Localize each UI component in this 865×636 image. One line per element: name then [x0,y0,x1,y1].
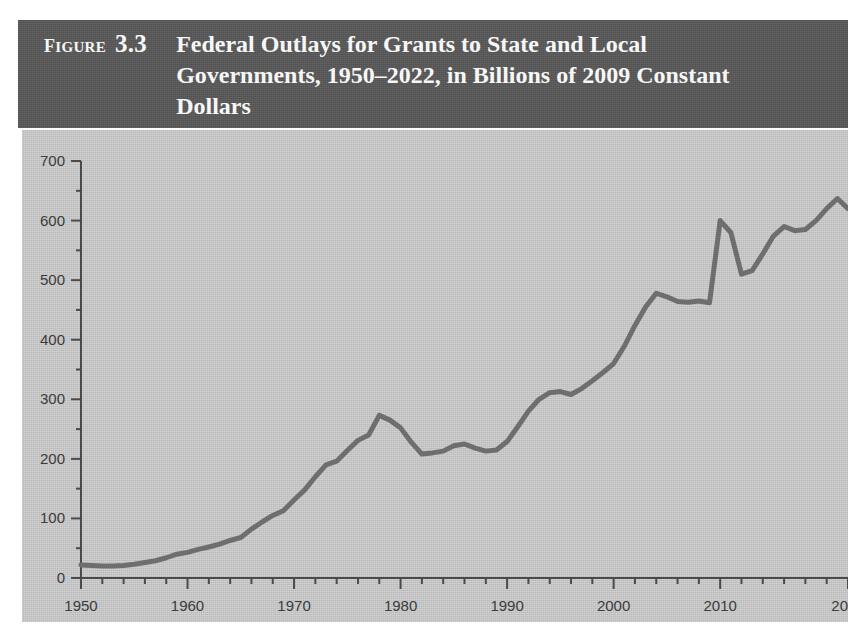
y-axis: 0100200300400500600700 [40,152,81,586]
y-axis-tick-label: 200 [40,450,65,467]
figure-label: Figure [44,29,115,60]
figure-number: 3.3 [115,29,147,59]
y-axis-tick-label: 300 [40,390,65,407]
chart-panel: 0100200300400500600700 19501960197019801… [22,130,848,622]
y-axis-tick-label: 500 [40,271,65,288]
x-axis-tick-label: 1980 [384,597,417,614]
y-axis-tick-label: 700 [40,152,65,169]
x-axis-tick-label: 2000 [597,597,630,614]
y-axis-tick-label: 0 [57,569,65,586]
x-axis-tick-label: 2010 [703,597,736,614]
y-axis-tick-label: 100 [40,509,65,526]
line-chart: 0100200300400500600700 19501960197019801… [22,130,848,622]
y-axis-tick-label: 400 [40,331,65,348]
x-axis-tick-label: 1970 [277,597,310,614]
figure-title-bar: Figure 3.3 Federal Outlays for Grants to… [18,20,848,128]
figure-title-text: Federal Outlays for Grants to State and … [176,29,776,122]
x-axis: 19501960197019801990200020102022 [64,578,848,614]
x-axis-tick-label: 1960 [171,597,204,614]
figure-title-line: Figure 3.3 Federal Outlays for Grants to… [44,29,834,122]
data-series-line [81,199,848,567]
data-series-group [81,199,848,567]
y-axis-tick-label: 600 [40,212,65,229]
figure-root: Figure 3.3 Federal Outlays for Grants to… [0,0,865,636]
x-axis-tick-label: 1990 [490,597,523,614]
x-axis-tick-label: 2022 [831,597,848,614]
x-axis-tick-label: 1950 [64,597,97,614]
